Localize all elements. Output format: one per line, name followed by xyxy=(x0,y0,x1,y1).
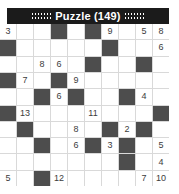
grid-cell-blocked xyxy=(153,106,169,121)
grid-cell[interactable] xyxy=(34,24,50,39)
grid-cell[interactable] xyxy=(102,89,118,104)
grid-cell-value: 3 xyxy=(5,27,10,36)
grid-cell[interactable] xyxy=(34,73,50,88)
grid-cell[interactable] xyxy=(119,40,135,55)
grid-cell-value: 12 xyxy=(54,174,64,183)
grid-cell[interactable] xyxy=(0,57,16,72)
grid-cell[interactable]: 8 xyxy=(34,57,50,72)
grid-cell-blocked xyxy=(136,57,152,72)
grid-cell-value: 4 xyxy=(141,92,146,101)
grid-cell[interactable]: 4 xyxy=(136,89,152,104)
grid-cell[interactable]: 6 xyxy=(153,40,169,55)
grid-cell[interactable]: 10 xyxy=(153,171,169,186)
grid-cell[interactable] xyxy=(34,40,50,55)
grid-cell[interactable] xyxy=(136,40,152,55)
grid-cell[interactable]: 4 xyxy=(153,154,169,169)
grid-cell-blocked xyxy=(0,73,16,88)
grid-cell[interactable] xyxy=(51,122,67,137)
grid-cell[interactable] xyxy=(68,106,84,121)
grid-cell[interactable] xyxy=(153,122,169,137)
grid-cell-value: 4 xyxy=(158,158,163,167)
grid-cell[interactable] xyxy=(119,106,135,121)
grid-cell[interactable] xyxy=(102,106,118,121)
grid-cell-value: 11 xyxy=(88,109,97,118)
grid-cell[interactable] xyxy=(51,106,67,121)
grid-cell[interactable] xyxy=(102,154,118,169)
grid-cell[interactable] xyxy=(17,154,33,169)
grid-cell[interactable] xyxy=(102,171,118,186)
grid-cell[interactable] xyxy=(153,73,169,88)
grid-cell-value: 5 xyxy=(5,174,10,183)
grid-cell[interactable]: 5 xyxy=(0,171,16,186)
grid-cell[interactable]: 7 xyxy=(17,73,33,88)
grid-cell[interactable] xyxy=(0,138,16,153)
grid-cell[interactable] xyxy=(68,171,84,186)
grid-cell[interactable] xyxy=(119,171,135,186)
grid-cell[interactable] xyxy=(85,40,101,55)
grid-cell[interactable]: 6 xyxy=(68,138,84,153)
grid-cell[interactable] xyxy=(34,106,50,121)
grid-cell[interactable] xyxy=(119,57,135,72)
grid-cell-blocked xyxy=(34,138,50,153)
grid-cell[interactable] xyxy=(136,73,152,88)
grid-cell[interactable]: 9 xyxy=(68,73,84,88)
puzzle-grid[interactable]: 395868679641311826354512710 xyxy=(0,24,169,186)
grid-cell[interactable] xyxy=(34,154,50,169)
grid-cell[interactable] xyxy=(51,138,67,153)
grid-cell-value: 8 xyxy=(73,125,78,134)
grid-cell[interactable] xyxy=(102,57,118,72)
grid-cell[interactable] xyxy=(17,57,33,72)
grid-cell[interactable] xyxy=(136,106,152,121)
grid-cell[interactable] xyxy=(0,122,16,137)
grid-cell[interactable] xyxy=(17,138,33,153)
grid-cell[interactable] xyxy=(68,40,84,55)
grid-cell-blocked xyxy=(17,122,33,137)
grid-cell[interactable]: 6 xyxy=(51,89,67,104)
grid-cell[interactable] xyxy=(136,138,152,153)
grid-cell[interactable] xyxy=(153,89,169,104)
grid-cell-value: 2 xyxy=(124,125,129,134)
grid-cell[interactable]: 2 xyxy=(119,122,135,137)
grid-cell[interactable] xyxy=(153,57,169,72)
grid-cell[interactable]: 3 xyxy=(102,138,118,153)
grid-cell[interactable]: 11 xyxy=(85,106,101,121)
grid-cell[interactable] xyxy=(34,122,50,137)
grid-cell[interactable] xyxy=(17,89,33,104)
grid-cell[interactable]: 7 xyxy=(136,171,152,186)
grid-cell[interactable] xyxy=(119,24,135,39)
grid-cell-blocked xyxy=(34,89,50,104)
grid-cell[interactable] xyxy=(68,24,84,39)
grid-cell[interactable] xyxy=(85,171,101,186)
grid-cell[interactable]: 5 xyxy=(136,24,152,39)
grid-cell[interactable] xyxy=(68,154,84,169)
grid-cell-blocked xyxy=(68,89,84,104)
grid-cell-value: 8 xyxy=(158,27,163,36)
grid-cell[interactable]: 3 xyxy=(0,24,16,39)
grid-cell[interactable]: 12 xyxy=(51,171,67,186)
grid-cell-value: 13 xyxy=(20,109,30,118)
grid-cell[interactable] xyxy=(85,122,101,137)
grid-cell[interactable] xyxy=(17,40,33,55)
grid-cell[interactable] xyxy=(68,57,84,72)
grid-cell[interactable]: 5 xyxy=(153,138,169,153)
grid-cell[interactable] xyxy=(0,154,16,169)
grid-cell[interactable] xyxy=(102,73,118,88)
grid-cell-value: 9 xyxy=(73,76,78,85)
grid-cell[interactable] xyxy=(85,73,101,88)
grid-cell[interactable] xyxy=(51,154,67,169)
grid-cell[interactable] xyxy=(119,73,135,88)
grid-cell-blocked xyxy=(0,40,16,55)
grid-cell[interactable] xyxy=(17,24,33,39)
grid-cell[interactable] xyxy=(0,89,16,104)
grid-cell[interactable] xyxy=(85,154,101,169)
grid-cell[interactable] xyxy=(51,40,67,55)
grid-cell[interactable] xyxy=(136,154,152,169)
grid-cell[interactable]: 8 xyxy=(153,24,169,39)
grid-cell[interactable] xyxy=(17,171,33,186)
grid-cell[interactable] xyxy=(85,89,101,104)
grid-cell[interactable]: 8 xyxy=(68,122,84,137)
grid-cell-blocked xyxy=(136,122,152,137)
grid-cell[interactable]: 6 xyxy=(51,57,67,72)
grid-cell[interactable]: 13 xyxy=(17,106,33,121)
grid-cell[interactable]: 9 xyxy=(102,24,118,39)
